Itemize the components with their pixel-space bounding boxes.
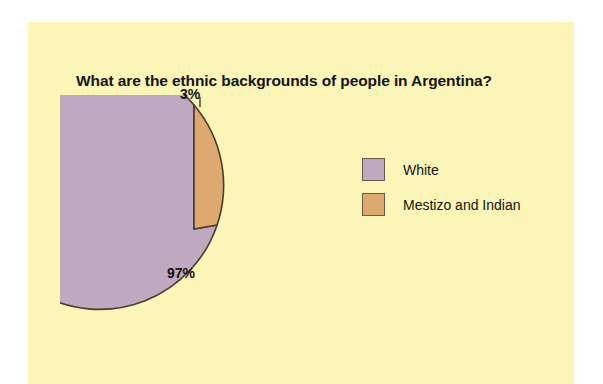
data-label-white: 97% — [167, 265, 195, 281]
legend-label-mestizo-and-indian: Mestizo and Indian — [403, 197, 521, 213]
pie-chart-graphic — [60, 95, 328, 363]
legend-item-mestizo-and-indian[interactable]: Mestizo and Indian — [362, 187, 562, 222]
legend-swatch-mestizo-and-indian-icon — [362, 193, 385, 216]
pie-chart — [60, 95, 328, 363]
page-canvas: What are the ethnic backgrounds of peopl… — [0, 0, 603, 384]
legend-swatch-white-icon — [362, 158, 385, 181]
pie-slice-mestizo-and-indian[interactable] — [194, 105, 224, 229]
legend-label-white: White — [403, 162, 439, 178]
chart-title: What are the ethnic backgrounds of peopl… — [76, 72, 576, 90]
legend-item-white[interactable]: White — [362, 152, 562, 187]
chart-legend: White Mestizo and Indian — [362, 152, 562, 222]
data-label-mestizo-and-indian: 3% — [180, 86, 200, 102]
